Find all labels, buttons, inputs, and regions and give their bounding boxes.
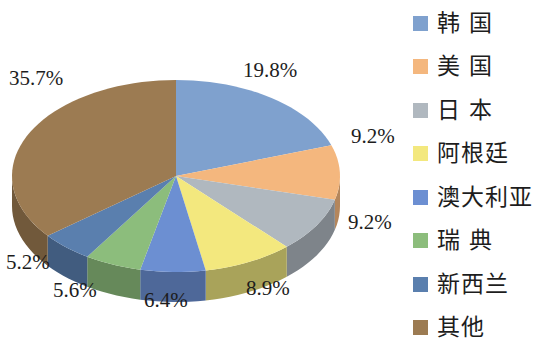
legend-item-label: 阿根廷 (437, 142, 509, 165)
legend-item-3[interactable]: 日 本 (406, 95, 493, 125)
legend-item-6[interactable]: 瑞 典 (406, 226, 493, 256)
legend-item-2[interactable]: 美 国 (406, 52, 493, 82)
slice-label-6-4: 6.4% (144, 288, 188, 313)
legend-item-1[interactable]: 韩 国 (406, 8, 493, 38)
slice-label-5-6: 5.6% (53, 278, 97, 303)
slice-label-9-2-lower: 9.2% (348, 210, 392, 235)
legend-item-label: 澳大利亚 (437, 186, 533, 209)
legend-swatch-icon (413, 103, 428, 118)
pie-top-faces: 韩 国 19.8%美 国 9.2%日 本 9.2%阿根廷 8.9%澳大利亚 6.… (12, 80, 340, 272)
slice-label-8-9: 8.9% (246, 276, 290, 301)
slice-label-9-2-upper: 9.2% (351, 124, 395, 149)
slice-label-35-7: 35.7% (9, 66, 63, 91)
legend-item-label: 其他 (437, 316, 485, 339)
legend-swatch-icon (413, 59, 428, 74)
legend-swatch-icon (413, 190, 428, 205)
chart-legend: 韩 国美 国日 本阿根廷澳大利亚瑞 典新西兰其他 (406, 0, 537, 356)
legend-item-7[interactable]: 新西兰 (406, 269, 509, 299)
slice-label-5-2: 5.2% (6, 250, 50, 275)
slice-label-19-8: 19.8% (243, 58, 297, 83)
legend-item-8[interactable]: 其他 (406, 313, 485, 343)
legend-item-label: 瑞 典 (437, 229, 493, 252)
legend-swatch-icon (413, 320, 428, 335)
legend-item-label: 日 本 (437, 99, 493, 122)
legend-swatch-icon (413, 277, 428, 292)
legend-item-label: 美 国 (437, 55, 493, 78)
pie-chart-figure: 韩 国 19.8%美 国 9.2%日 本 9.2%阿根廷 8.9%澳大利亚 6.… (0, 0, 537, 356)
legend-swatch-icon (413, 146, 428, 161)
legend-item-label: 韩 国 (437, 12, 493, 35)
legend-item-label: 新西兰 (437, 273, 509, 296)
legend-item-4[interactable]: 阿根廷 (406, 139, 509, 169)
pie-plot-area: 韩 国 19.8%美 国 9.2%日 本 9.2%阿根廷 8.9%澳大利亚 6.… (0, 0, 390, 356)
legend-swatch-icon (413, 233, 428, 248)
legend-item-5[interactable]: 澳大利亚 (406, 182, 533, 212)
legend-swatch-icon (413, 16, 428, 31)
